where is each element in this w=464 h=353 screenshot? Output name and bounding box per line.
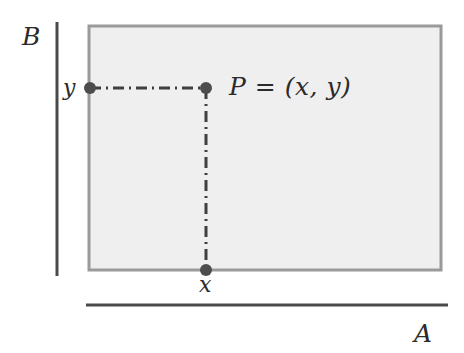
diagram-canvas <box>0 0 464 353</box>
axis-a-label: A <box>414 321 432 346</box>
product-set-diagram: B A y x P = (x, y) <box>0 0 464 353</box>
coordinate-label-x: x <box>199 274 211 296</box>
point-p-dot <box>200 82 212 94</box>
axis-b-label: B <box>22 24 40 49</box>
coordinate-dot-y <box>84 82 96 94</box>
coordinate-label-y: y <box>63 77 75 99</box>
product-region-rectangle <box>89 26 441 270</box>
point-p-label: P = (x, y) <box>229 74 351 99</box>
